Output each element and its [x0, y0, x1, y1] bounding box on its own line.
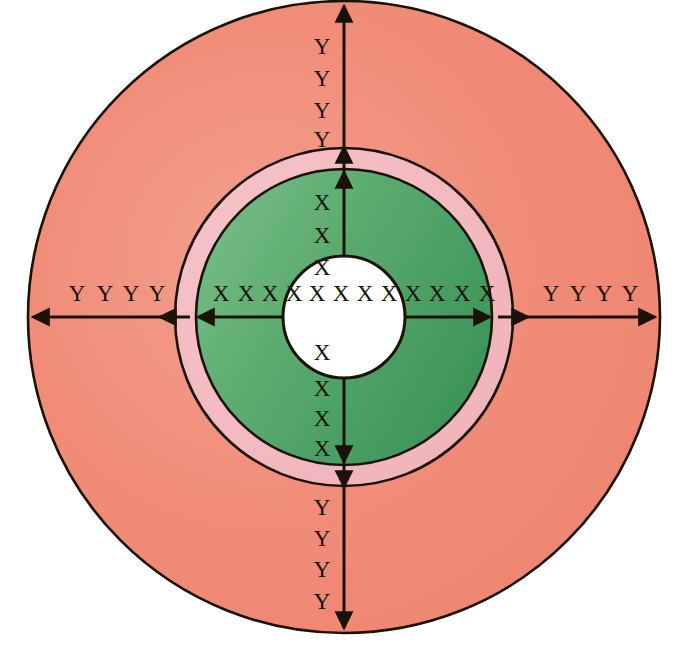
zone-label: Y	[570, 281, 587, 306]
zone-label: Y	[123, 281, 140, 306]
concentric-zone-diagram: Y Y Y Y X X X X X X X Y Y Y	[0, 0, 687, 665]
zone-label: X	[479, 281, 496, 306]
zone-label: X	[286, 281, 303, 306]
zone-label: Y	[314, 526, 331, 551]
zone-label: X	[314, 376, 331, 401]
zone-label: Y	[314, 66, 331, 91]
zone-label: Y	[314, 495, 331, 520]
zone-label: Y	[314, 557, 331, 582]
zone-label: X	[314, 340, 331, 365]
labels-vertical-down-inner: X X X X	[314, 340, 331, 461]
zone-label: X	[333, 281, 350, 306]
zone-label: Y	[314, 34, 331, 59]
labels-vertical-up-inner: X X X	[314, 190, 331, 280]
zone-label: X	[309, 281, 326, 306]
zone-label: X	[314, 223, 331, 248]
zone-label: X	[357, 281, 374, 306]
zone-label: X	[381, 281, 398, 306]
zone-label: Y	[97, 281, 114, 306]
diagram-root: Y Y Y Y X X X X X X X Y Y Y	[0, 0, 687, 665]
zone-label: X	[238, 281, 255, 306]
zone-label: X	[454, 281, 471, 306]
zone-label: X	[429, 281, 446, 306]
zone-label: X	[262, 281, 279, 306]
zone-label: Y	[314, 98, 331, 123]
zone-label: Y	[596, 281, 613, 306]
zone-label: Y	[69, 281, 86, 306]
zone-label: X	[405, 281, 422, 306]
zone-label: Y	[543, 281, 560, 306]
zone-label: Y	[314, 589, 331, 614]
zone-label: X	[314, 190, 331, 215]
white-core	[283, 256, 405, 378]
labels-horizontal-right-inner: X X X	[429, 281, 496, 306]
zone-label: Y	[622, 281, 639, 306]
zone-label: Y	[149, 281, 166, 306]
zone-label: X	[314, 255, 331, 280]
zone-label: X	[314, 406, 331, 431]
zone-label: Y	[314, 127, 331, 152]
zone-label: X	[314, 436, 331, 461]
zone-label: X	[213, 281, 230, 306]
